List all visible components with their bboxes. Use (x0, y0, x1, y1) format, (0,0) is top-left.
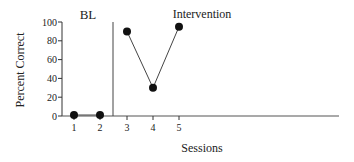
y-tick-label: 100 (42, 17, 57, 28)
y-axis-label: Percent Correct (13, 32, 27, 108)
x-tick-labels: 1 2 3 4 5 (72, 122, 182, 133)
x-tick-label: 2 (98, 122, 103, 133)
y-tick-labels: 100 80 60 40 20 0 (42, 17, 57, 122)
intervention-line (127, 27, 179, 88)
chart: 100 80 60 40 20 0 Percent Correct 1 2 3 … (0, 0, 354, 162)
y-tick-label: 20 (47, 92, 57, 103)
y-tick-label: 60 (47, 54, 57, 65)
data-point (96, 111, 104, 119)
data-point (175, 23, 183, 31)
y-ticks (58, 22, 62, 116)
x-axis-label: Sessions (181, 141, 223, 155)
data-point (149, 84, 157, 92)
data-point (70, 111, 78, 119)
y-tick-label: 40 (47, 73, 57, 84)
x-tick-label: 4 (151, 122, 156, 133)
x-tick-label: 3 (125, 122, 130, 133)
y-tick-label: 0 (52, 111, 57, 122)
data-point (123, 27, 131, 35)
phase-label-baseline: BL (80, 7, 97, 22)
x-tick-label: 5 (177, 122, 182, 133)
x-tick-label: 1 (72, 122, 77, 133)
phase-label-intervention: Intervention (173, 7, 232, 21)
y-tick-label: 80 (47, 35, 57, 46)
